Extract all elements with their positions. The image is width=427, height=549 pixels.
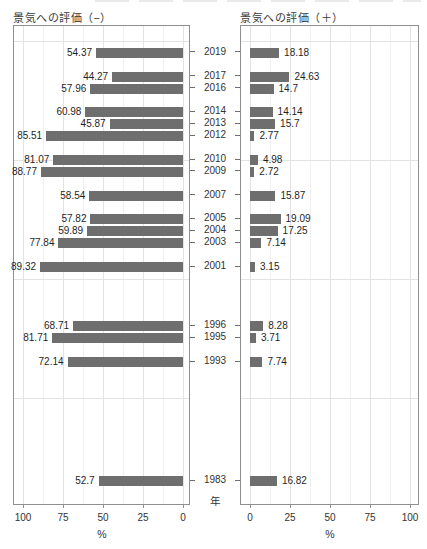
bar-value-label: 24.63 [294,72,319,82]
bar-left-2009 [41,167,183,177]
bar-left-1983 [99,476,183,486]
x-axis-tick [103,505,104,508]
x-axis-tick [370,505,371,508]
bar-right-1995 [250,333,256,343]
year-row-1996: 1996 [190,320,240,330]
bar-left-2013 [110,119,183,129]
gridline-vertical-major [410,26,411,504]
year-label: 2007 [195,190,235,200]
right-x-axis-unit-label: % [325,528,334,540]
bar-value-label: 59.89 [58,226,83,236]
bar-value-label: 72.14 [39,357,64,367]
year-row-2009: 2009 [190,166,240,176]
x-axis-tick [330,505,331,508]
bar-right-2016 [250,84,274,94]
year-label: 2010 [195,154,235,164]
bar-value-label: 3.15 [260,262,279,272]
bar-right-2014 [250,107,273,117]
bar-value-label: 81.07 [24,155,49,165]
year-label: 2019 [195,47,235,57]
gridline-horizontal-decade [14,398,189,399]
x-axis-tick-label: 100 [15,512,32,523]
year-tick-right [235,480,240,481]
bar-value-label: 14.7 [279,84,298,94]
year-label: 2017 [195,71,235,81]
bar-value-label: 85.51 [17,131,42,141]
bar-value-label: 57.82 [61,214,86,224]
gridline-vertical-major [330,26,331,504]
bar-value-label: 45.87 [81,119,106,129]
bar-left-2007 [89,191,183,201]
year-label: 2009 [195,166,235,176]
year-row-2013: 2013 [190,118,240,128]
bar-right-2004 [250,226,278,236]
year-label: 2016 [195,83,235,93]
x-axis-tick-label: 50 [324,512,335,523]
right-panel-plot-area: 18.1824.6314.714.1415.72.774.982.7215.87… [240,25,419,505]
bar-right-2013 [250,119,275,129]
year-tick-right [235,135,240,136]
year-row-2019: 2019 [190,47,240,57]
gridline-horizontal-decade [241,41,418,42]
year-row-2001: 2001 [190,261,240,271]
bar-value-label: 7.14 [266,238,285,248]
bar-right-2019 [250,48,279,58]
bar-value-label: 54.37 [67,48,92,58]
year-tick-right [235,230,240,231]
bar-value-label: 16.82 [282,476,307,486]
bar-left-2005 [90,214,183,224]
bar-value-label: 19.09 [286,214,311,224]
year-tick-right [235,111,240,112]
left-panel-plot-area: 54.3744.2757.9660.9845.8785.5181.0788.77… [13,25,190,505]
bar-left-2001 [40,262,183,272]
bar-right-2010 [250,155,258,165]
year-row-1995: 1995 [190,332,240,342]
bar-value-label: 44.27 [83,72,108,82]
bar-right-1996 [250,321,263,331]
gridline-vertical-major [290,26,291,504]
year-label: 2014 [195,106,235,116]
year-row-1983: 1983 [190,475,240,485]
bar-value-label: 88.77 [12,167,37,177]
year-tick-right [235,337,240,338]
x-axis-tick-label: 75 [364,512,375,523]
x-axis-tick [63,505,64,508]
year-label: 1995 [195,332,235,342]
gridline-vertical-minor [390,26,391,504]
bar-value-label: 7.74 [267,357,286,367]
bar-right-2009 [250,167,254,177]
bar-value-label: 2.77 [259,131,278,141]
bar-value-label: 81.71 [23,333,48,343]
x-axis-tick-label: 25 [137,512,148,523]
year-tick-right [235,266,240,267]
x-axis-tick-label: 100 [402,512,419,523]
year-row-2004: 2004 [190,225,240,235]
x-axis-tick-label: 25 [284,512,295,523]
gridline-vertical-minor [350,26,351,504]
bar-right-2001 [250,262,255,272]
bar-left-1993 [68,357,183,367]
left-panel-title: 景気への評価（−） [13,9,112,25]
bar-left-2014 [85,107,183,117]
x-axis-tick [23,505,24,508]
x-axis-tick-label: 75 [57,512,68,523]
year-row-2017: 2017 [190,71,240,81]
bar-right-2005 [250,214,281,224]
year-tick-right [235,325,240,326]
year-tick-right [235,159,240,160]
year-label: 1996 [195,320,235,330]
x-axis-tick [250,505,251,508]
gridline-horizontal-decade [14,279,189,280]
x-axis-tick-label: 50 [97,512,108,523]
bar-value-label: 2.72 [259,167,278,177]
year-label: 2012 [195,130,235,140]
year-row-2007: 2007 [190,190,240,200]
bar-left-2019 [96,48,183,58]
bar-right-2012 [250,131,254,141]
bar-left-1995 [52,333,183,343]
bar-left-1996 [73,321,183,331]
right-panel-title: 景気への評価（＋） [240,9,344,25]
bar-value-label: 77.84 [29,238,54,248]
year-label: 2001 [195,261,235,271]
bar-left-2016 [90,84,183,94]
